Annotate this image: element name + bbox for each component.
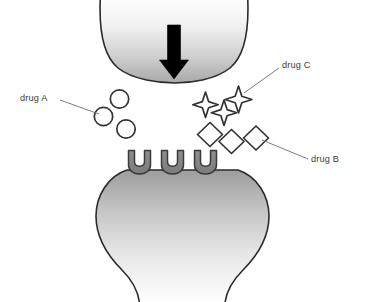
receptor-2	[162, 151, 184, 175]
diagram-canvas: drug A drug C drug B	[0, 0, 368, 302]
drug-a-leader-line	[60, 100, 99, 114]
drug-b-molecule-3	[244, 126, 269, 150]
drug-b-label: drug B	[311, 154, 339, 164]
receptor-group	[129, 151, 217, 175]
drug-b-molecule-1	[198, 123, 223, 147]
drug-a-molecule-1	[110, 90, 128, 108]
drug-c-molecule-group	[193, 86, 252, 125]
drug-a-label: drug A	[20, 93, 48, 103]
drug-a-molecule-2	[94, 107, 112, 125]
drug-b-molecule-2	[219, 130, 244, 154]
postsynaptic-cell-shape	[96, 170, 269, 302]
drug-b-molecule-group	[198, 123, 269, 154]
drug-a-molecule-group	[94, 90, 135, 138]
drug-a-molecule-3	[117, 120, 135, 138]
postsynaptic-cell	[96, 170, 269, 302]
drug-b-leader-line	[262, 140, 308, 159]
drug-c-label: drug C	[282, 60, 311, 70]
receptor-1	[129, 151, 151, 175]
synapse-diagram: drug A drug C drug B	[0, 0, 368, 302]
receptor-3	[195, 151, 217, 175]
drug-c-leader-line	[244, 68, 279, 93]
